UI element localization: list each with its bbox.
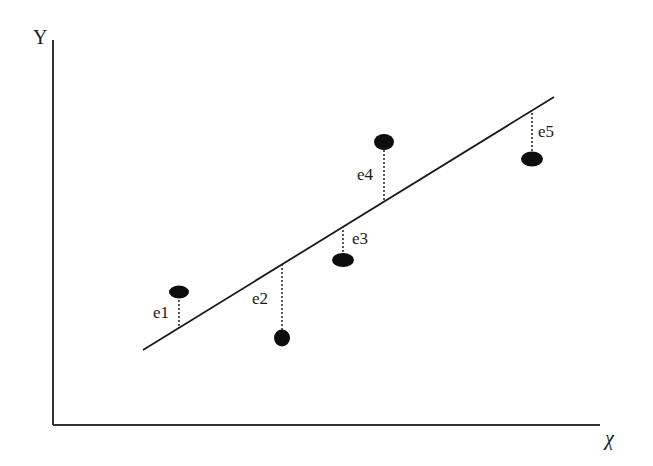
residual-labels: e1e2e3e4e5 [153, 122, 554, 322]
residual-label-e4: e4 [357, 165, 374, 184]
residual-label-e5: e5 [538, 122, 554, 141]
y-axis-label: Y [33, 26, 47, 48]
data-point-e3 [332, 253, 354, 267]
data-point-e4 [374, 134, 394, 150]
x-axis-label: χ [603, 427, 615, 450]
data-point-e2 [274, 330, 290, 347]
data-point-e1 [169, 286, 189, 299]
residual-lines [179, 110, 532, 338]
residual-label-e1: e1 [153, 303, 169, 322]
regression-line [143, 97, 554, 350]
residual-label-e3: e3 [352, 229, 368, 248]
residual-diagram: Y χ e1e2e3e4e5 [0, 0, 653, 466]
residual-label-e2: e2 [252, 289, 268, 308]
data-point-e5 [521, 152, 543, 167]
